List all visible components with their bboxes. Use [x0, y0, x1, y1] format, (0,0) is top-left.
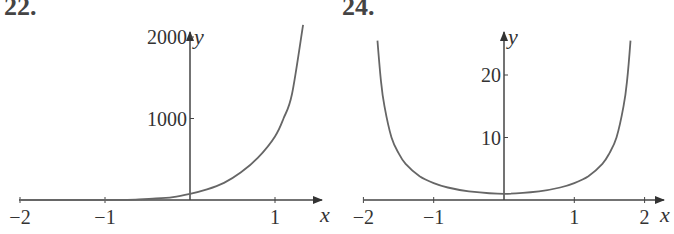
y-axis-label: y	[192, 24, 204, 49]
ticks: −2−1121020	[353, 64, 650, 228]
x-tick-label: −2	[9, 206, 30, 228]
x-tick-label: −2	[353, 206, 374, 228]
y-tick-label: 2000	[147, 26, 187, 48]
x-tick-label: 1	[270, 206, 280, 228]
x-tick-label: −1	[94, 206, 115, 228]
y-tick-label: 10	[481, 127, 501, 149]
x-tick-label: 1	[569, 206, 579, 228]
y-tick-label: 1000	[147, 108, 187, 130]
x-axis-label: x	[319, 202, 330, 227]
y-tick-label: 20	[481, 64, 501, 86]
x-tick-label: 2	[640, 206, 650, 228]
x-tick-label: −1	[423, 206, 444, 228]
y-axis-label: y	[506, 24, 518, 49]
charts-canvas: −2−1110002000 x y −2−1121020 x y	[0, 0, 674, 234]
chart-22: −2−1110002000 x y	[9, 24, 330, 228]
chart-24: −2−1121020 x y	[353, 24, 670, 228]
x-axis-label: x	[659, 202, 670, 227]
ticks: −2−1110002000	[9, 26, 280, 228]
